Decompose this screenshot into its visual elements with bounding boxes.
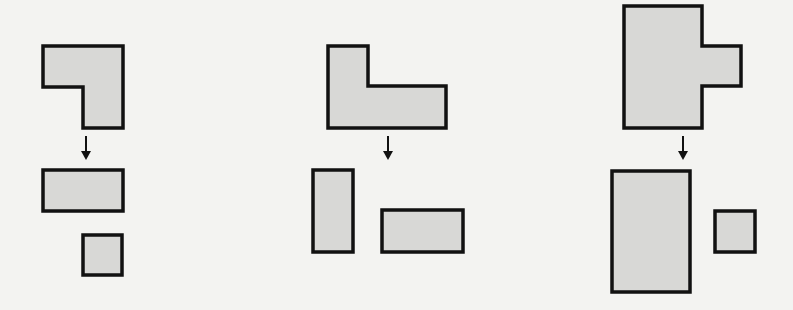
part-square-2 xyxy=(83,235,122,275)
part-rect-1 xyxy=(43,170,123,211)
part-rect-2 xyxy=(382,210,463,252)
panel-1 xyxy=(43,46,123,275)
panel-3 xyxy=(612,6,755,292)
part-square-2 xyxy=(715,211,755,252)
composite-t-shape xyxy=(624,6,741,128)
panel-2 xyxy=(313,46,463,252)
part-rect-1 xyxy=(612,171,690,292)
arrow-down-icon xyxy=(678,136,688,160)
composite-l-shape xyxy=(43,46,123,128)
composite-l-shape xyxy=(328,46,446,128)
arrow-down-icon xyxy=(383,136,393,160)
arrow-down-icon xyxy=(81,136,91,160)
decomposition-diagram xyxy=(0,0,793,310)
part-rect-1 xyxy=(313,170,353,252)
